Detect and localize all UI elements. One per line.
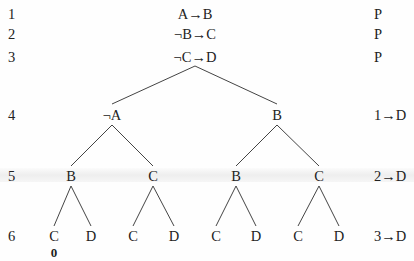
tree-node: D bbox=[169, 228, 179, 244]
tree-node: D bbox=[251, 228, 261, 244]
tree-node: C bbox=[211, 228, 221, 244]
tree-node: C bbox=[128, 228, 138, 244]
line-number: 6 bbox=[8, 228, 15, 244]
justification: 3→D bbox=[374, 228, 406, 244]
tree-node: D bbox=[86, 228, 96, 244]
branch-closure-mark: 0 bbox=[51, 245, 58, 261]
premise-formula: ¬C→D bbox=[174, 49, 217, 65]
line-number: 5 bbox=[8, 168, 15, 184]
justification: 2→D bbox=[374, 168, 406, 184]
tree-node: C bbox=[314, 168, 324, 184]
tree-node: C bbox=[293, 228, 303, 244]
tree-node: C bbox=[148, 168, 158, 184]
line-number: 3 bbox=[8, 49, 15, 65]
justification: P bbox=[374, 6, 382, 22]
justification: P bbox=[374, 49, 382, 65]
premise-formula: A→B bbox=[178, 6, 213, 22]
tree-node: B bbox=[66, 168, 76, 184]
line-number: 4 bbox=[8, 107, 15, 123]
tree-node: C bbox=[49, 228, 59, 244]
justification: 1→D bbox=[374, 107, 406, 123]
tree-node: ¬A bbox=[103, 107, 122, 123]
tree-node: B bbox=[231, 168, 241, 184]
line-number: 2 bbox=[8, 26, 15, 42]
tree-node: B bbox=[272, 107, 282, 123]
justification: P bbox=[374, 26, 382, 42]
tree-node: D bbox=[334, 228, 344, 244]
premise-formula: ¬B→C bbox=[174, 26, 216, 42]
line-number: 1 bbox=[8, 6, 15, 22]
